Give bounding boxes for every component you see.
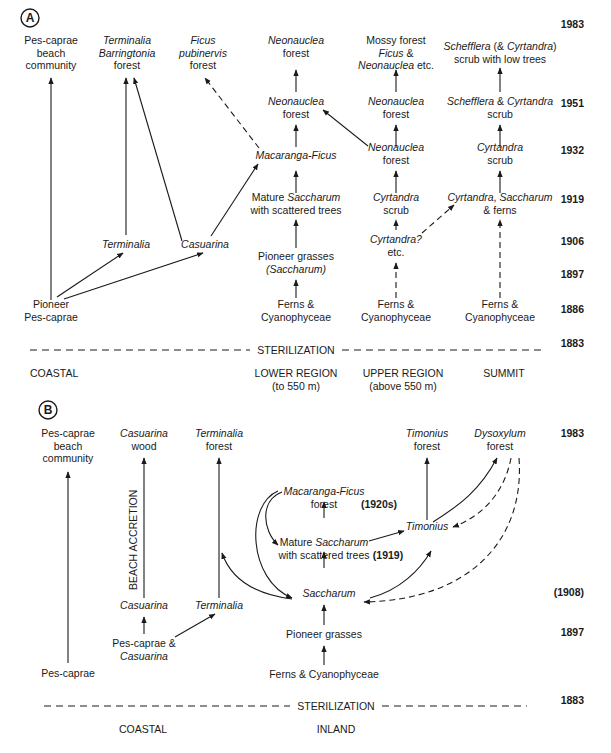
node-label-segment: Timonius <box>406 427 449 439</box>
node-b_macaranga: Macaranga-Ficusforest <box>283 485 365 510</box>
node-b_mature: Mature Saccharumwith scattered trees <box>277 536 369 561</box>
node-label-segment: wood <box>130 440 156 452</box>
node-label: Neonaucleaforest <box>368 95 424 120</box>
node-label-segment: Cyrtandra <box>373 191 419 203</box>
node-label: Timonius <box>406 520 449 532</box>
sterilization-divider: STERILIZATION <box>30 344 545 356</box>
node-b_cas: Casuarina <box>120 599 168 611</box>
node-a_neo_1951_up: Neonaucleaforest <box>368 95 424 120</box>
node-label-segment: forest <box>311 498 337 510</box>
dashed-arrow <box>422 205 454 233</box>
node-b_tim_forest: Timoniusforest <box>406 427 449 452</box>
node-label-segment: Pioneer grasses <box>258 250 334 262</box>
node-a_macaranga: Macaranga-Ficus <box>255 149 337 161</box>
node-label-segment: Macaranga-Ficus <box>283 485 365 497</box>
node-label-segment: scrub <box>487 154 513 166</box>
year-label: 1883 <box>561 694 585 706</box>
node-label: Pes-caprae <box>41 667 95 679</box>
sterilization-label: STERILIZATION <box>257 344 334 356</box>
node-a_cyrt_1932: Cyrtandrascrub <box>477 141 523 166</box>
node-label-segment: forest <box>414 440 440 452</box>
node-a_neo_1932_up: Neonaucleaforest <box>368 141 424 166</box>
region-label-line: LOWER REGION <box>255 367 338 379</box>
node-label-segment: Pes-caprae <box>41 427 95 439</box>
node-a_ferns_sum: Ferns &Cyanophyceae <box>465 298 535 323</box>
region-label-line: COASTAL <box>30 367 78 379</box>
sterilization-divider: STERILIZATION <box>44 700 527 712</box>
date-annotation: (1920s) <box>361 498 397 510</box>
node-label-segment: Neonauclea <box>368 95 424 107</box>
solid-arrow <box>369 531 404 541</box>
node-b_term: Terminalia <box>195 599 243 611</box>
node-a_schef_1951: Schefflera & Cyrtandrascrub <box>447 95 553 120</box>
node-label: Cyrtandra, Saccharum& ferns <box>447 191 552 216</box>
node-label-segment: Ferns & Cyanophyceae <box>269 668 379 680</box>
year-label: 1919 <box>561 193 585 205</box>
year-label: 1983 <box>561 427 585 439</box>
node-label: Ferns &Cyanophyceae <box>361 298 431 323</box>
node-label: Casuarinawood <box>120 427 168 452</box>
node-label-segment: forest <box>383 108 409 120</box>
region-label-line: (to 550 m) <box>272 380 320 392</box>
node-label: Neonaucleaforest <box>268 95 324 120</box>
node-label: Schefflera & Cyrtandrascrub <box>447 95 553 120</box>
node-b_term_forest: Terminaliaforest <box>195 427 243 452</box>
node-label-segment: scrub <box>487 108 513 120</box>
node-label-segment: Dysoxylum <box>474 427 526 439</box>
node-label: TerminaliaBarringtoniaforest <box>99 34 156 71</box>
region-label: COASTAL <box>30 367 78 379</box>
node-label-segment: Cyanophyceae <box>465 311 535 323</box>
node-label-segment: Pioneer <box>33 298 70 310</box>
node-label-segment: Schefflera <box>443 40 490 52</box>
year-label: 1886 <box>561 303 585 315</box>
region-label: INLAND <box>317 723 356 735</box>
year-label: 1883 <box>561 337 585 349</box>
node-label-segment: Casuarina <box>120 650 168 662</box>
node-label-segment: & ferns <box>483 204 516 216</box>
node-a_schef_1983: Schefflera (& Cyrtandra)scrub with low t… <box>443 40 556 65</box>
node-label: Neonaucleaforest <box>368 141 424 166</box>
node-label-segment: with scattered trees <box>277 549 369 561</box>
node-label-segment: Terminalia <box>195 427 243 439</box>
node-b_pes: Pes-caprae <box>41 667 95 679</box>
node-label: Mature Saccharumwith scattered trees <box>249 191 341 216</box>
node-label-segment: Saccharum <box>302 587 355 599</box>
node-label-segment: etc. <box>414 59 434 71</box>
node-label-segment: Cyrtandra? <box>370 233 422 245</box>
year-axis: 1983(1908)18971883 <box>554 427 585 706</box>
community-nodes: Pes-capraebeachcommunityCasuarinawoodTer… <box>41 427 526 680</box>
node-label-segment: scrub with low trees <box>454 53 546 65</box>
node-label: Terminalia <box>102 238 150 250</box>
node-label: Cyrtandra?etc. <box>370 233 422 258</box>
node-label: Saccharum <box>302 587 355 599</box>
node-label: Casuarina <box>120 599 168 611</box>
node-label: Macaranga-Ficus <box>255 149 337 161</box>
node-a_ficus: Ficuspubinervisforest <box>178 34 228 71</box>
node-label-segment: community <box>43 452 95 464</box>
node-label: Terminalia <box>195 599 243 611</box>
node-a_pioneer_pes: PioneerPes-caprae <box>24 298 78 323</box>
node-label: Pioneer grasses(Saccharum) <box>258 250 334 275</box>
year-label: 1897 <box>561 626 585 638</box>
node-b_sacch: Saccharum <box>302 587 355 599</box>
date-annotation: (1919) <box>373 549 403 561</box>
year-label: 1983 <box>561 18 585 30</box>
node-a_cyrt_sacch_ferns: Cyrtandra, Saccharum& ferns <box>447 191 552 216</box>
region-label: UPPER REGION(above 550 m) <box>363 367 444 392</box>
node-a_term_barr: TerminaliaBarringtoniaforest <box>99 34 156 71</box>
panel-letter: B <box>44 403 53 417</box>
region-label: SUMMIT <box>483 367 525 379</box>
node-a_mossy: Mossy forestFicus &Neonauclea etc. <box>358 34 434 71</box>
panel-letter-badge-a: A <box>21 9 39 27</box>
node-label: Cyrtandrascrub <box>373 191 419 216</box>
node-label-segment: Ferns & <box>482 298 519 310</box>
node-label: Casuarina <box>181 238 229 250</box>
node-label: Pes-caprae &Casuarina <box>112 637 176 662</box>
node-a_cyrt_scrub_1919: Cyrtandrascrub <box>373 191 419 216</box>
node-label-segment: Ferns & <box>378 298 415 310</box>
node-label-segment: Saccharum <box>499 191 552 203</box>
node-label-segment: beach <box>37 47 66 59</box>
region-label-line: SUMMIT <box>483 367 525 379</box>
panel-b-anak-krakatau-succession: B BEACH ACCRETION Pes-capraebeachcommuni… <box>39 401 584 735</box>
node-label-segment: Timonius <box>406 520 449 532</box>
